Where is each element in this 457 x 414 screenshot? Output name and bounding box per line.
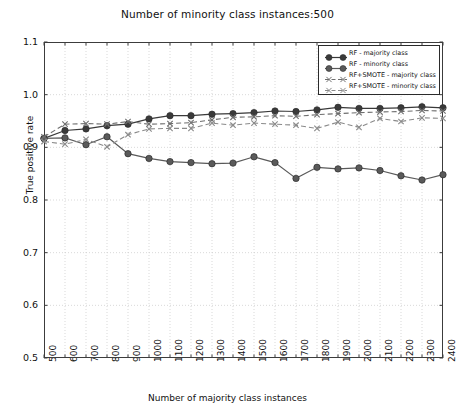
series-rf-minority-class xyxy=(41,134,446,184)
legend: RF - majority classRF - minority classRF… xyxy=(318,45,440,95)
legend-label: RF+SMOTE - majority class xyxy=(349,70,436,81)
legend-label: RF - majority class xyxy=(349,48,408,59)
legend-item: RF - minority class xyxy=(321,59,437,70)
series-rf-smote-minority-class xyxy=(41,115,445,149)
legend-circle-marker-icon xyxy=(323,48,349,59)
data-series xyxy=(41,104,446,184)
legend-circle-marker-icon xyxy=(323,59,349,70)
legend-item: RF+SMOTE - majority class xyxy=(321,70,437,81)
legend-item: RF - majority class xyxy=(321,48,437,59)
legend-item: RF+SMOTE - minority class xyxy=(321,81,437,92)
legend-label: RF+SMOTE - minority class xyxy=(349,81,436,92)
series-rf-majority-class xyxy=(41,104,446,142)
legend-label: RF - minority class xyxy=(349,59,408,70)
legend-cross-marker-icon xyxy=(323,81,349,92)
legend-cross-marker-icon xyxy=(323,70,349,81)
